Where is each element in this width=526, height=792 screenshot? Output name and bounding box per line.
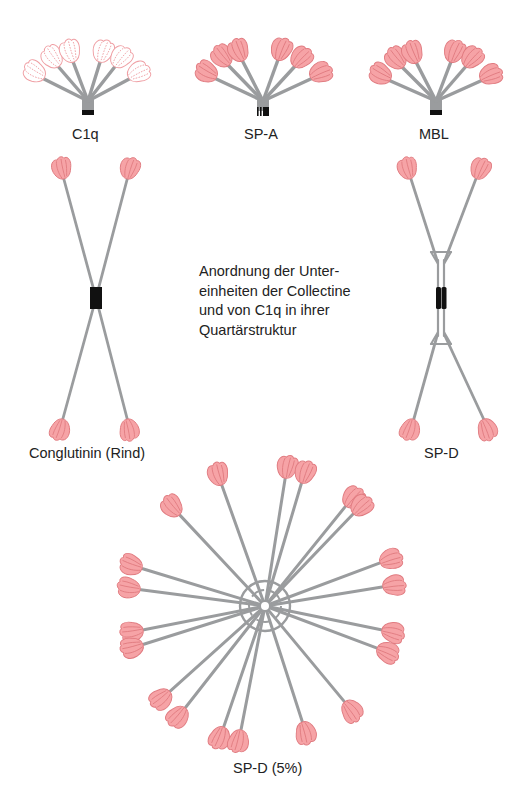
n-terminal-core bbox=[442, 287, 447, 309]
sp-d-multimer-molecule bbox=[116, 454, 408, 755]
c1q-label: C1q bbox=[72, 126, 99, 142]
crd-head-icon bbox=[117, 417, 142, 443]
collagen-stalk bbox=[96, 298, 128, 422]
collagen-stalk bbox=[186, 610, 262, 707]
collagen-stalk bbox=[62, 298, 96, 422]
crd-head-icon bbox=[336, 696, 367, 727]
caption-line: Anordnung der Unter- bbox=[199, 262, 351, 282]
crd-head-icon bbox=[381, 573, 407, 597]
crd-head-icon bbox=[476, 60, 506, 89]
collagen-stalk bbox=[96, 176, 128, 298]
n-terminal-core bbox=[436, 287, 441, 309]
crd-head-icon bbox=[397, 416, 422, 443]
mbl-label: MBL bbox=[419, 126, 449, 142]
caption-line: Quartärstruktur bbox=[199, 321, 351, 341]
collagen-stalk bbox=[400, 65, 436, 101]
crd-head-icon bbox=[226, 728, 251, 755]
collagen-stalk bbox=[63, 176, 96, 298]
crd-head-icon bbox=[116, 576, 142, 600]
conglutinin-molecule bbox=[48, 155, 143, 444]
collagen-stalk bbox=[413, 336, 437, 422]
figure-caption: Anordnung der Unter- einheiten der Colle… bbox=[199, 262, 351, 340]
crd-head-icon bbox=[118, 155, 143, 182]
crd-head-icon bbox=[292, 719, 319, 748]
crd-head-icon bbox=[467, 155, 493, 183]
sp-d-label: SP-D bbox=[424, 445, 459, 461]
collagen-stalk bbox=[445, 336, 485, 422]
sp-a-molecule bbox=[191, 35, 336, 116]
collagen-stalk bbox=[226, 63, 263, 101]
crd-head-icon bbox=[395, 154, 421, 181]
crd-head-icon bbox=[48, 416, 73, 443]
conglutinin-label: Conglutinin (Rind) bbox=[29, 445, 145, 461]
collagen-stalk bbox=[445, 176, 477, 260]
n-terminal-core bbox=[82, 110, 94, 115]
sp-a-label: SP-A bbox=[244, 126, 278, 142]
crd-head-icon bbox=[49, 155, 74, 182]
collagen-stalk bbox=[410, 176, 437, 260]
collagen-stalk bbox=[56, 64, 88, 101]
caption-line: und von C1q in ihrer bbox=[199, 301, 351, 321]
collectin-diagram bbox=[0, 0, 526, 792]
n-terminal-core bbox=[90, 287, 102, 309]
caption-line: einheiten der Collectine bbox=[199, 282, 351, 302]
sp-d-molecule bbox=[395, 154, 501, 443]
hub-center bbox=[260, 601, 270, 611]
n-terminal-core bbox=[430, 110, 442, 115]
c1q-molecule bbox=[19, 36, 154, 115]
collagen-stalk bbox=[270, 608, 377, 648]
crd-head-icon bbox=[118, 634, 146, 661]
n-terminal-core bbox=[263, 107, 269, 116]
n-terminal-core bbox=[257, 107, 259, 116]
crd-head-icon bbox=[474, 416, 501, 444]
mbl-molecule bbox=[365, 37, 506, 115]
crd-head-icon bbox=[205, 459, 232, 488]
crd-head-icon bbox=[377, 545, 406, 573]
n-terminal-core bbox=[260, 107, 262, 116]
crd-head-icon bbox=[380, 620, 407, 645]
sp-d-multimer-label: SP-D (5%) bbox=[233, 760, 302, 776]
crd-head-icon bbox=[117, 551, 145, 578]
